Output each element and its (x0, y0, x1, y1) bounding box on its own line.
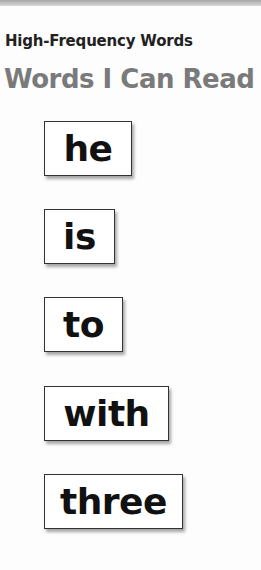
section-subtitle: High-Frequency Words (5, 32, 193, 50)
word-text: he (63, 128, 112, 169)
word-text: is (63, 216, 96, 257)
word-card-with: with (44, 386, 169, 441)
word-card-he: he (44, 121, 132, 176)
word-text: three (60, 481, 167, 522)
word-card-to: to (44, 297, 123, 352)
top-edge-strip (0, 0, 261, 6)
page-title: Words I Can Read (4, 64, 254, 94)
word-card-is: is (44, 209, 115, 264)
word-text: with (63, 393, 149, 434)
word-card-three: three (44, 474, 183, 529)
word-text: to (63, 304, 104, 345)
